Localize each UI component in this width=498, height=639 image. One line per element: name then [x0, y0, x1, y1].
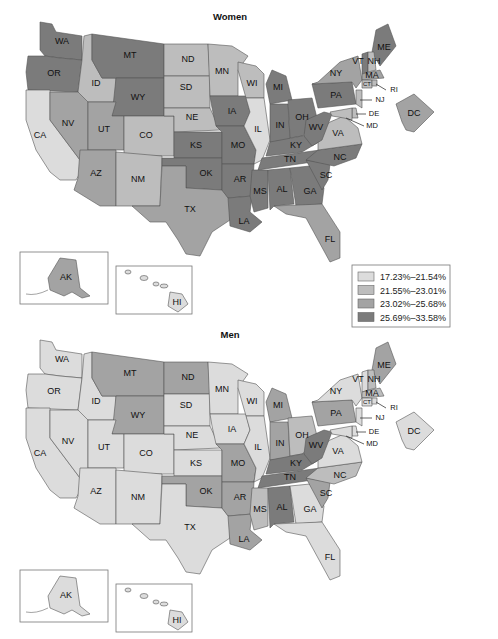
- state-label-ak: AK: [60, 272, 72, 282]
- state-label-nd: ND: [182, 372, 195, 382]
- state-label-sd: SD: [180, 82, 193, 92]
- state-label-az: AZ: [90, 486, 102, 496]
- state-label-sc: SC: [320, 170, 333, 180]
- state-label-ne: NE: [186, 112, 199, 122]
- state-label-mo: MO: [231, 458, 246, 468]
- state-label-ky: KY: [290, 140, 302, 150]
- state-label-ca: CA: [34, 448, 47, 458]
- hawaii-island: [140, 276, 148, 281]
- state-label-ct: CT: [363, 81, 371, 87]
- map-title: Men: [221, 329, 240, 340]
- choropleth-maps: WomenWAORCAIDNVMTWYUTCOAZNMNDSDNEKSOKTXM…: [0, 0, 498, 639]
- state-label-ma: MA: [365, 70, 379, 80]
- state-label-ms: MS: [253, 186, 267, 196]
- state-label-ut: UT: [98, 442, 110, 452]
- state-label-mt: MT: [124, 368, 137, 378]
- state-label-mn: MN: [215, 66, 229, 76]
- state-label-ca: CA: [34, 130, 47, 140]
- state-label-az: AZ: [90, 168, 102, 178]
- state-label-wi: WI: [247, 78, 258, 88]
- hawaii-island: [153, 600, 159, 604]
- state-label-ny: NY: [330, 386, 343, 396]
- legend-label: 25.69%–33.58%: [380, 313, 446, 323]
- state-label-in: IN: [276, 120, 285, 130]
- state-label-la: LA: [238, 534, 249, 544]
- state-label-ut: UT: [98, 124, 110, 134]
- state-label-la: LA: [238, 216, 249, 226]
- state-label-wi: WI: [247, 396, 258, 406]
- state-label-wa: WA: [55, 36, 69, 46]
- hawaii-island: [125, 588, 131, 592]
- legend-swatch: [358, 313, 374, 322]
- leader-line-ri: [376, 402, 386, 408]
- state-label-ak: AK: [60, 590, 72, 600]
- state-label-in: IN: [276, 438, 285, 448]
- state-nj: [356, 408, 362, 426]
- hawaii-island: [160, 602, 168, 606]
- state-label-pa: PA: [330, 408, 341, 418]
- state-label-mn: MN: [215, 384, 229, 394]
- state-label-tn: TN: [284, 154, 296, 164]
- state-de: [352, 108, 358, 118]
- state-label-mo: MO: [231, 140, 246, 150]
- state-label-oh: OH: [295, 112, 309, 122]
- state-fl: [274, 522, 340, 580]
- state-label-ms: MS: [253, 504, 267, 514]
- state-label-mi: MI: [273, 82, 283, 92]
- state-label-hi: HI: [173, 297, 182, 307]
- state-fl: [274, 204, 340, 262]
- legend-swatch: [358, 299, 374, 308]
- alaska-inset: AK: [20, 570, 108, 622]
- state-label-nv: NV: [62, 436, 75, 446]
- state-label-ri: RI: [390, 85, 398, 94]
- state-label-ct: CT: [363, 399, 371, 405]
- state-label-ia: IA: [228, 424, 237, 434]
- state-label-wv: WV: [309, 440, 324, 450]
- state-label-co: CO: [139, 130, 153, 140]
- state-label-nm: NM: [131, 492, 145, 502]
- state-label-id: ID: [92, 78, 102, 88]
- state-label-ar: AR: [234, 174, 247, 184]
- state-label-sc: SC: [320, 488, 333, 498]
- state-ri: [372, 80, 377, 86]
- state-label-dc: DC: [408, 108, 421, 118]
- state-label-ne: NE: [186, 430, 199, 440]
- state-label-me: ME: [377, 360, 391, 370]
- state-label-dc: DC: [408, 426, 421, 436]
- state-label-nh: NH: [368, 374, 381, 384]
- state-label-wy: WY: [131, 92, 146, 102]
- state-label-tx: TX: [184, 522, 196, 532]
- state-label-mi: MI: [273, 400, 283, 410]
- state-label-or: OR: [47, 68, 61, 78]
- state-label-co: CO: [139, 448, 153, 458]
- state-label-nm: NM: [131, 174, 145, 184]
- legend-swatch: [358, 286, 374, 295]
- state-label-al: AL: [276, 184, 287, 194]
- state-label-ny: NY: [330, 68, 343, 78]
- state-label-vt: VT: [352, 374, 364, 384]
- legend-label: 23.02%–25.68%: [380, 299, 446, 309]
- men-map: MenWAORCAIDNVMTWYUTCOAZNMNDSDNEKSOKTXMNI…: [20, 329, 434, 632]
- state-label-ok: OK: [199, 168, 212, 178]
- state-label-tx: TX: [184, 204, 196, 214]
- state-label-nh: NH: [368, 56, 381, 66]
- legend-swatch: [358, 272, 374, 281]
- state-nj: [356, 90, 362, 108]
- state-label-de: DE: [369, 109, 379, 118]
- state-label-ma: MA: [365, 388, 379, 398]
- state-label-ga: GA: [303, 504, 316, 514]
- state-label-va: VA: [332, 128, 343, 138]
- state-label-md: MD: [366, 121, 378, 130]
- hawaii-island: [125, 270, 131, 274]
- state-label-wa: WA: [55, 354, 69, 364]
- state-label-sd: SD: [180, 400, 193, 410]
- state-label-me: ME: [377, 42, 391, 52]
- state-label-nc: NC: [334, 152, 347, 162]
- state-label-or: OR: [47, 386, 61, 396]
- hawaii-inset: HI: [116, 266, 192, 314]
- state-label-hi: HI: [173, 615, 182, 625]
- state-label-nv: NV: [62, 118, 75, 128]
- state-label-ks: KS: [190, 458, 202, 468]
- leader-line-ri: [376, 84, 386, 90]
- state-label-de: DE: [369, 427, 379, 436]
